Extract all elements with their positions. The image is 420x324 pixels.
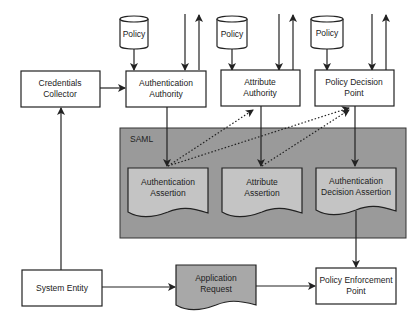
doc-label: Assertion xyxy=(150,188,186,198)
saml-diagram: SAML Policy Policy Policy Credentials Co… xyxy=(0,0,420,324)
doc-label: Authentication xyxy=(329,176,383,186)
box-label: Attribute xyxy=(244,77,276,87)
policy-store-2: Policy xyxy=(217,16,247,49)
application-request-doc: Application Request xyxy=(176,265,256,310)
box-label: Point xyxy=(344,88,364,98)
authentication-authority-box: Authentication Authority xyxy=(126,71,206,107)
policy-store-3: Policy xyxy=(311,16,343,49)
policy-store-1: Policy xyxy=(120,16,148,49)
policy-store-label: Policy xyxy=(316,28,339,38)
doc-label: Request xyxy=(200,284,232,294)
box-label: Policy Enforcement xyxy=(319,275,393,285)
box-label: Credentials xyxy=(39,78,82,88)
system-entity-box: System Entity xyxy=(22,270,102,306)
policy-enforcement-point-box: Policy Enforcement Point xyxy=(316,268,396,304)
authentication-decision-assertion-doc: Authentication Decision Assertion xyxy=(316,168,396,215)
box-label: Authority xyxy=(149,89,183,99)
credentials-collector-box: Credentials Collector xyxy=(21,71,100,107)
policy-store-label: Policy xyxy=(221,29,244,39)
authentication-assertion-doc: Authentication Assertion xyxy=(128,168,208,217)
doc-label: Application xyxy=(195,273,237,283)
policy-store-label: Policy xyxy=(123,29,146,39)
doc-label: Decision Assertion xyxy=(321,187,391,197)
box-label: Collector xyxy=(43,89,77,99)
box-label: Authentication xyxy=(139,78,193,88)
attribute-authority-box: Attribute Authority xyxy=(221,70,300,106)
doc-label: Authentication xyxy=(141,177,195,187)
box-label: System Entity xyxy=(36,283,89,293)
box-label: Policy Decision xyxy=(325,77,383,87)
box-label: Point xyxy=(346,286,366,296)
doc-label: Assertion xyxy=(244,188,280,198)
policy-decision-point-box: Policy Decision Point xyxy=(315,70,394,106)
saml-label: SAML xyxy=(130,134,153,144)
box-label: Authority xyxy=(243,88,277,98)
doc-label: Attribute xyxy=(246,177,278,187)
attribute-assertion-doc: Attribute Assertion xyxy=(222,168,302,217)
